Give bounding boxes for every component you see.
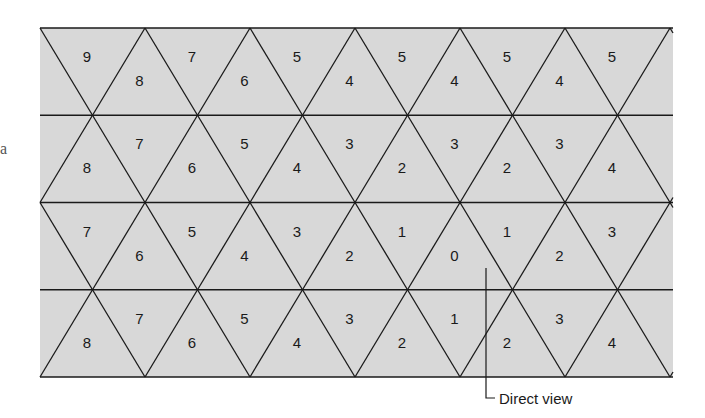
triangle-label: 4 — [293, 159, 301, 176]
triangle-label: 3 — [450, 135, 458, 152]
triangle-label: 8 — [83, 159, 91, 176]
triangle-label: 3 — [293, 223, 301, 240]
triangle-label: 4 — [293, 334, 301, 351]
triangle-label: 7 — [83, 223, 91, 240]
triangle-label: 5 — [608, 48, 616, 65]
triangle-label: 1 — [398, 223, 406, 240]
triangle-label: 3 — [608, 223, 616, 240]
triangle-grid-diagram: 9876545454587654323234765432101238765432… — [0, 0, 705, 418]
triangle-label: 4 — [240, 247, 248, 264]
triangle-label: 5 — [240, 135, 248, 152]
triangle-label: 3 — [345, 135, 353, 152]
callout-label: Direct view — [499, 390, 573, 407]
triangle-label: 2 — [555, 247, 563, 264]
triangle-label: 2 — [503, 159, 511, 176]
triangle-label: 1 — [503, 223, 511, 240]
triangle-label: 3 — [555, 310, 563, 327]
triangle-label: 2 — [345, 247, 353, 264]
triangle-label: 6 — [135, 247, 143, 264]
triangle-label: 4 — [608, 159, 616, 176]
triangle-label: 3 — [555, 135, 563, 152]
triangle-label: 3 — [345, 310, 353, 327]
direct-view-triangle-label: 0 — [450, 247, 458, 264]
triangle-label: 1 — [450, 310, 458, 327]
triangle-label: 8 — [135, 72, 143, 89]
triangle-label: 4 — [555, 72, 563, 89]
triangle-label: 9 — [83, 48, 91, 65]
triangle-label: 4 — [345, 72, 353, 89]
triangle-label: 2 — [398, 334, 406, 351]
triangle-label: 2 — [503, 334, 511, 351]
triangle-label: 6 — [240, 72, 248, 89]
triangle-label: 5 — [503, 48, 511, 65]
triangle-label: 7 — [135, 135, 143, 152]
triangle-label: 5 — [240, 310, 248, 327]
triangle-label: 7 — [135, 310, 143, 327]
triangle-label: 2 — [398, 159, 406, 176]
triangle-label: 4 — [608, 334, 616, 351]
triangle-label: 5 — [188, 223, 196, 240]
triangle-label: 4 — [450, 72, 458, 89]
triangle-label: 7 — [188, 48, 196, 65]
triangle-label: 5 — [293, 48, 301, 65]
triangle-label: 5 — [398, 48, 406, 65]
triangle-label: 6 — [188, 334, 196, 351]
triangle-label: 8 — [83, 334, 91, 351]
triangle-label: 6 — [188, 159, 196, 176]
